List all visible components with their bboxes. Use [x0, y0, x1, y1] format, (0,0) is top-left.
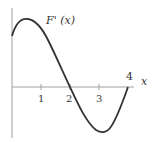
curve-label: F' (x) [45, 14, 75, 27]
x-axis-label: x [141, 75, 148, 88]
tick-label-3: 3 [96, 93, 102, 104]
f-prime-curve [12, 19, 128, 132]
tick-label-2: 2 [66, 93, 72, 104]
tick-label-1: 1 [38, 93, 44, 104]
f-prime-chart: F' (x) x 1 2 3 4 [0, 0, 155, 142]
tick-label-4: 4 [126, 70, 133, 83]
